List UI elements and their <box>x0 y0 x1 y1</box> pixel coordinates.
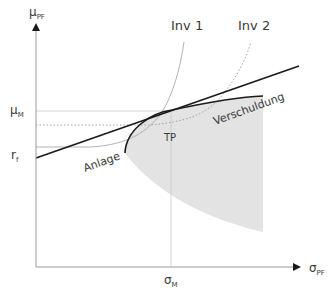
sigma-m-label: σM <box>164 273 178 289</box>
inv1-label: Inv 1 <box>171 18 203 33</box>
y-axis-arrow-icon <box>32 23 40 31</box>
y-axis-label: μPF <box>29 5 45 21</box>
capital-market-diagram: μPF σPF μM rf σM Inv 1 Inv 2 TP Anlage V… <box>0 0 331 296</box>
tangency-point-label: TP <box>163 132 176 143</box>
mu-m-label: μM <box>10 103 24 119</box>
inv2-label: Inv 2 <box>238 18 270 33</box>
x-axis-arrow-icon <box>293 263 301 271</box>
rf-label: rf <box>11 148 19 164</box>
lending-label: Anlage <box>82 150 122 175</box>
x-axis-label: σPF <box>309 261 325 277</box>
